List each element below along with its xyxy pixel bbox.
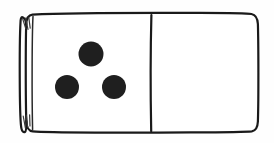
pip-bottom-left xyxy=(55,75,79,99)
domino-tile[interactable] xyxy=(20,13,259,133)
domino-scene: Domino Tile xyxy=(0,0,274,143)
tile-body-outline xyxy=(26,13,259,133)
domino-illustration xyxy=(0,0,274,143)
hatch-stroke-bottom-1 xyxy=(23,116,25,128)
pip-top-center xyxy=(79,42,104,67)
pip-bottom-right xyxy=(102,75,126,99)
center-divider xyxy=(151,15,152,131)
